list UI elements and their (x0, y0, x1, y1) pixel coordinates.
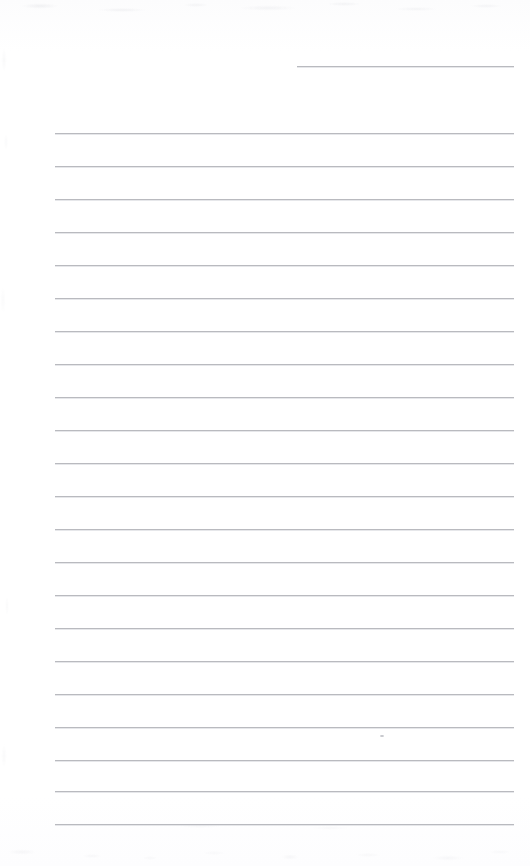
ruled-line (55, 694, 514, 695)
ruled-line (55, 463, 514, 464)
ruled-line (55, 199, 514, 200)
ruled-line (55, 133, 514, 134)
ruled-line (55, 364, 514, 365)
ruled-line-partial (297, 66, 514, 67)
ruled-line (55, 496, 514, 497)
ruled-line (55, 265, 514, 266)
ruled-line (55, 661, 514, 662)
ruled-line (55, 791, 514, 792)
scanned-page (0, 0, 530, 866)
ruled-line (55, 824, 514, 825)
ruled-line (55, 562, 514, 563)
ruled-line (55, 760, 514, 761)
ruled-line (55, 727, 514, 728)
ruled-line (55, 529, 514, 530)
ruled-line (55, 166, 514, 167)
ruled-line (55, 628, 514, 629)
ruled-line (55, 298, 514, 299)
ruled-line (55, 232, 514, 233)
paper-background (0, 0, 530, 866)
ruled-line (55, 331, 514, 332)
ruled-line (55, 430, 514, 431)
ruled-line (55, 595, 514, 596)
stray-pencil-mark (380, 735, 384, 737)
ruled-line (55, 397, 514, 398)
